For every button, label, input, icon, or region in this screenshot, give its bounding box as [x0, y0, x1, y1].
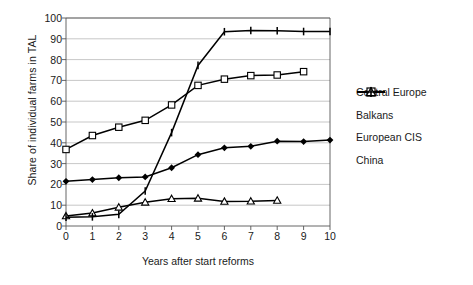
- legend-label: European CIS: [356, 131, 422, 143]
- data-point-open-square: [63, 146, 69, 152]
- data-point-open-square: [195, 82, 201, 88]
- legend-item-european-cis: European CIS: [356, 131, 427, 143]
- chart-legend: Central Europe Balkans European CIS Chin…: [356, 86, 427, 166]
- data-point-filled-diamond: [274, 138, 281, 145]
- data-point-open-square: [221, 76, 227, 82]
- legend-item-china: China: [356, 154, 427, 166]
- data-point-filled-diamond: [89, 176, 96, 183]
- data-point-filled-diamond: [142, 174, 149, 181]
- series-line-china: [66, 30, 330, 217]
- data-point-open-square: [116, 124, 122, 130]
- data-point-filled-diamond: [195, 151, 202, 158]
- chart-figure: Share of individual farms in TAL Years a…: [0, 0, 473, 285]
- series-line-central-europe: [66, 140, 330, 181]
- data-point-filled-diamond: [247, 143, 254, 150]
- data-point-open-square: [248, 72, 254, 78]
- data-point-open-square: [168, 102, 174, 108]
- data-point-filled-diamond: [168, 164, 175, 171]
- data-point-filled-diamond: [115, 174, 122, 181]
- data-point-filled-diamond: [300, 138, 307, 145]
- legend-label: Balkans: [356, 109, 393, 121]
- legend-item-balkans: Balkans: [356, 109, 427, 121]
- series-line-balkans: [66, 72, 304, 150]
- legend-marker-plus: [356, 86, 386, 98]
- data-point-open-square: [89, 132, 95, 138]
- legend-label: China: [356, 154, 383, 166]
- data-point-open-square: [274, 72, 280, 78]
- data-point-filled-diamond: [63, 178, 70, 185]
- data-point-open-square: [300, 68, 306, 74]
- data-point-open-square: [142, 117, 148, 123]
- data-point-filled-diamond: [221, 144, 228, 151]
